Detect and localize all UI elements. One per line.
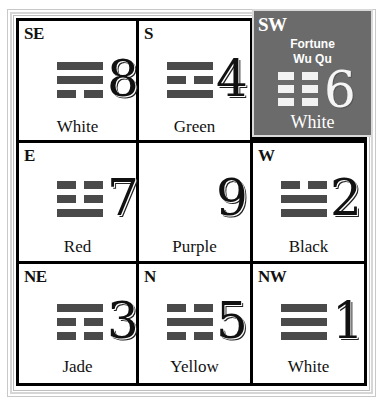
star-color: Jade	[19, 357, 136, 377]
star-color: Red	[19, 237, 136, 257]
star-number: 1	[332, 296, 364, 346]
star-number: 6	[324, 65, 356, 115]
cell-s: S 4 Green	[139, 21, 250, 140]
trigram-icon	[281, 304, 327, 342]
star-number: 2	[330, 173, 362, 223]
trigram-icon	[278, 72, 318, 108]
cell-center: 9 Purple	[139, 143, 250, 261]
star-color: Green	[139, 117, 250, 137]
direction-label: N	[144, 267, 156, 287]
direction-label: E	[24, 146, 35, 166]
star-color: White	[19, 117, 136, 137]
star-color: White	[254, 112, 371, 133]
trigram-icon	[167, 304, 213, 342]
cell-ne: NE 3 Jade	[19, 264, 136, 383]
cell-nw: NW 1 White	[253, 264, 364, 383]
cell-se: SE 8 White	[19, 21, 136, 140]
star-color: Purple	[139, 237, 250, 257]
direction-label: NE	[24, 267, 47, 287]
star-number: 9	[216, 173, 248, 223]
star-number: 5	[216, 296, 248, 346]
star-number: 3	[107, 296, 139, 346]
star-number: 4	[216, 54, 248, 104]
trigram-icon	[167, 62, 213, 100]
trigram-icon	[281, 181, 327, 219]
star-color: Yellow	[139, 357, 250, 377]
star-number: 7	[107, 173, 139, 223]
direction-label: NW	[258, 267, 286, 287]
trigram-icon	[57, 304, 103, 342]
star-color: White	[253, 357, 364, 377]
cell-n: N 5 Yellow	[139, 264, 250, 383]
direction-label: S	[144, 24, 153, 44]
star-name: Fortune	[254, 37, 371, 51]
direction-label: SE	[24, 24, 44, 44]
star-color: Black	[253, 237, 364, 257]
cell-w: W 2 Black	[253, 143, 364, 261]
cell-e: E 7 Red	[19, 143, 136, 261]
trigram-icon	[57, 62, 103, 100]
cell-sw: SW Fortune Wu Qu 6 White	[252, 9, 373, 137]
direction-label: W	[258, 146, 275, 166]
trigram-icon	[57, 181, 103, 219]
star-number: 8	[107, 54, 139, 104]
direction-label: SW	[258, 14, 287, 36]
